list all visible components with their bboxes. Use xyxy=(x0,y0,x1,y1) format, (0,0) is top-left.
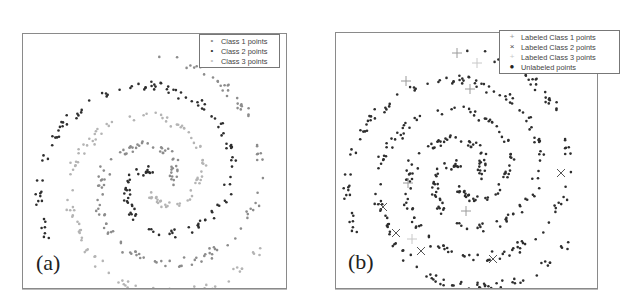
legend-item-class1: • Class 1 points xyxy=(203,36,275,46)
legend-item-labeled-class3: + Labeled Class 3 points xyxy=(503,52,615,62)
legend-item-unlabeled: ● Unlabeled points xyxy=(503,62,615,72)
legend-label: Labeled Class 2 points xyxy=(521,43,596,52)
legend-label: Class 2 points xyxy=(221,47,267,56)
dot-marker-icon: ● xyxy=(503,62,521,72)
scatter-panel-a: • Class 1 points • Class 2 points • Clas… xyxy=(22,33,287,289)
legend-a: • Class 1 points • Class 2 points • Clas… xyxy=(199,34,280,68)
legend-item-class3: • Class 3 points xyxy=(203,56,275,66)
spiral-scatter-plot-a xyxy=(23,34,286,288)
legend-item-labeled-class1: + Labeled Class 1 points xyxy=(503,32,615,42)
legend-label: Class 3 points xyxy=(221,57,267,66)
legend-label: Class 1 points xyxy=(221,37,267,46)
legend-label: Labeled Class 1 points xyxy=(521,33,596,42)
panel-label-a: (a) xyxy=(36,250,60,276)
legend-b: + Labeled Class 1 points × Labeled Class… xyxy=(499,30,620,74)
scatter-panel-b: + Labeled Class 1 points × Labeled Class… xyxy=(335,32,598,289)
legend-item-labeled-class2: × Labeled Class 2 points xyxy=(503,42,615,52)
plus-marker-icon: + xyxy=(503,32,521,42)
x-marker-icon: × xyxy=(503,42,521,52)
dot-marker-icon: • xyxy=(203,46,221,56)
dot-marker-icon: • xyxy=(203,36,221,46)
legend-label: Unlabeled points xyxy=(521,63,576,72)
dot-marker-icon: • xyxy=(203,56,221,66)
legend-item-class2: • Class 2 points xyxy=(203,46,275,56)
panel-label-b: (b) xyxy=(348,249,374,275)
plus-marker-icon: + xyxy=(503,52,521,62)
legend-label: Labeled Class 3 points xyxy=(521,53,596,62)
